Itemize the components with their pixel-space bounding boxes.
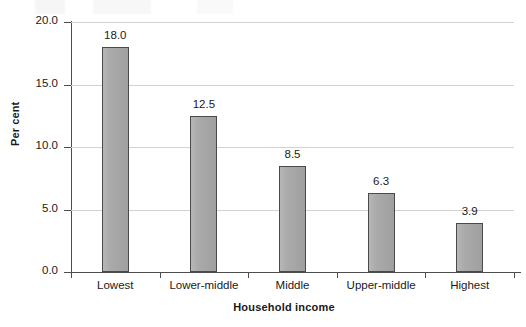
bar-value-label: 12.5 <box>174 98 234 110</box>
y-axis-tick-label: 5.0 <box>16 202 58 214</box>
y-axis-tick-label: 10.0 <box>16 139 58 151</box>
y-axis-tick-label: 0.0 <box>16 264 58 276</box>
bar-shading <box>191 117 216 271</box>
bar-shading <box>369 194 394 271</box>
y-axis-tick-label: 20.0 <box>16 14 58 26</box>
bar-value-label: 8.5 <box>263 148 323 160</box>
x-axis-line <box>64 272 521 273</box>
x-axis-tick <box>71 272 72 278</box>
bar-value-label: 18.0 <box>85 29 145 41</box>
x-axis-tick <box>425 272 426 278</box>
x-axis-tick <box>514 272 515 278</box>
bar <box>456 223 483 272</box>
x-axis-tick <box>160 272 161 278</box>
bar-value-label: 6.3 <box>351 175 411 187</box>
bar-shading <box>280 167 305 271</box>
bar <box>279 166 306 272</box>
x-axis-title: Household income <box>0 301 526 313</box>
x-axis-title-text: Household income <box>191 301 335 313</box>
y-axis-tick-label: 15.0 <box>16 77 58 89</box>
bar <box>368 193 395 272</box>
bar-value-label: 3.9 <box>440 205 500 217</box>
x-axis-tick <box>248 272 249 278</box>
bar-shading <box>457 224 482 271</box>
bar <box>102 47 129 272</box>
bar-chart: Per cent 0.05.010.015.020.0 LowestLower-… <box>0 0 526 327</box>
gridline <box>71 22 514 23</box>
scan-artifact <box>0 0 526 14</box>
x-axis-tick-label: Highest <box>415 279 525 291</box>
bar-shading <box>103 48 128 271</box>
gridline <box>71 85 514 86</box>
x-axis-tick <box>337 272 338 278</box>
bar <box>190 116 217 272</box>
